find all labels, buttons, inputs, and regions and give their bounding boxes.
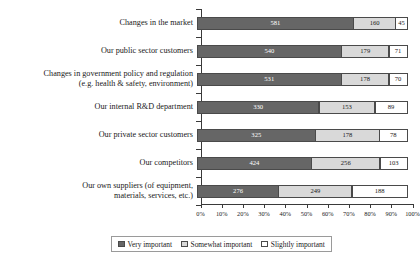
legend-swatch-icon [261, 241, 268, 248]
bar-segment: 424 [197, 157, 312, 170]
bar-segment: 249 [278, 185, 352, 198]
bar-segment: 581 [197, 17, 354, 30]
bar-value-label: 71 [395, 48, 402, 55]
legend-label: Somewhat important [191, 240, 253, 249]
x-axis-tick [285, 204, 286, 208]
bar-value-label: 45 [398, 20, 405, 27]
bar-value-label: 325 [251, 132, 261, 139]
bar-segment: 325 [197, 129, 316, 142]
x-axis-tick-labels: 0%10%20%30%40%50%60%70%80%90%100% [201, 209, 414, 221]
bar-value-label: 276 [233, 188, 243, 195]
chart-row: Our internal R&D department33015389 [0, 93, 418, 121]
chart-row: Changes in the market58116045 [0, 9, 418, 37]
x-axis-tick-label: 80% [364, 209, 376, 218]
x-axis-tick-label: 70% [343, 209, 355, 218]
category-label: Our public sector customers [0, 46, 197, 56]
bar-segment: 178 [315, 129, 380, 142]
stacked-bar: 53117870 [197, 73, 409, 86]
chart-row: Our competitors424256103 [0, 149, 418, 177]
x-axis-tick [307, 204, 308, 208]
stacked-bar: 58116045 [197, 17, 409, 30]
bar-value-label: 78 [390, 132, 397, 139]
bar-value-label: 531 [264, 76, 274, 83]
stacked-bar: 54017971 [197, 45, 409, 58]
category-label: Our competitors [0, 158, 197, 168]
bar-segment: 540 [197, 45, 342, 58]
chart-row: Our own suppliers (of equipment, materia… [0, 177, 418, 205]
bar-value-label: 188 [375, 188, 385, 195]
x-axis-tick [391, 204, 392, 208]
bar-value-label: 178 [342, 132, 352, 139]
category-label: Changes in government policy and regulat… [0, 69, 197, 88]
bar-value-label: 89 [388, 104, 395, 111]
bar-segment: 153 [319, 101, 376, 114]
bar-segment: 178 [341, 73, 389, 86]
x-axis-tick [264, 204, 265, 208]
x-axis-tick-label: 50% [301, 209, 313, 218]
x-axis-tick-label: 20% [237, 209, 249, 218]
category-label: Our internal R&D department [0, 102, 197, 112]
bar-value-label: 330 [253, 104, 263, 111]
stacked-bar: 276249188 [197, 185, 409, 198]
bar-segment: 160 [353, 17, 396, 30]
legend-item: Slightly important [261, 240, 325, 249]
bar-segment: 103 [380, 157, 408, 170]
bar-value-label: 179 [360, 48, 370, 55]
legend-label: Slightly important [271, 240, 325, 249]
bar-value-label: 153 [342, 104, 352, 111]
x-axis-tick-label: 0% [196, 209, 204, 218]
chart-legend: Very importantSomewhat importantSlightly… [111, 236, 332, 252]
bar-segment: 45 [395, 17, 407, 30]
bar-segment: 531 [197, 73, 342, 86]
legend-item: Very important [118, 240, 172, 249]
bar-segment: 78 [379, 129, 407, 142]
bar-segment: 179 [341, 45, 389, 58]
legend-label: Very important [128, 240, 173, 249]
bar-value-label: 249 [310, 188, 320, 195]
x-axis-tick-label: 30% [258, 209, 270, 218]
stacked-bar: 32517878 [197, 129, 409, 142]
x-axis-tick-label: 40% [280, 209, 292, 218]
x-axis-tick-label: 60% [322, 209, 334, 218]
category-label: Our private sector customers [0, 130, 197, 140]
bar-segment: 330 [197, 101, 319, 114]
x-axis-tick [370, 204, 371, 208]
legend-swatch-icon [181, 241, 188, 248]
legend-swatch-icon [118, 241, 125, 248]
bar-segment: 188 [352, 185, 408, 198]
chart-row: Changes in government policy and regulat… [0, 65, 418, 93]
x-axis-tick [222, 204, 223, 208]
x-axis-tick [349, 204, 350, 208]
stacked-bar: 33015389 [197, 101, 409, 114]
x-axis-tick [328, 204, 329, 208]
chart-row: Our private sector customers32517878 [0, 121, 418, 149]
bar-value-label: 160 [370, 20, 380, 27]
bar-rows: Changes in the market58116045Our public … [0, 9, 418, 205]
x-axis-tick-label: 90% [386, 209, 398, 218]
bar-value-label: 540 [265, 48, 275, 55]
bar-value-label: 70 [395, 76, 402, 83]
x-axis-tick-label: 100% [405, 209, 420, 218]
bar-segment: 276 [197, 185, 279, 198]
x-axis-tick [201, 204, 202, 208]
chart-row: Our public sector customers54017971 [0, 37, 418, 65]
bar-value-label: 103 [389, 160, 399, 167]
stacked-bar: 424256103 [197, 157, 409, 170]
x-axis-tick-label: 10% [216, 209, 228, 218]
bar-segment: 256 [311, 157, 380, 170]
legend-item: Somewhat important [181, 240, 252, 249]
bar-segment: 89 [375, 101, 408, 114]
bar-segment: 71 [389, 45, 408, 58]
x-axis-tick [243, 204, 244, 208]
bar-value-label: 424 [249, 160, 259, 167]
bar-value-label: 256 [341, 160, 351, 167]
bar-value-label: 581 [270, 20, 280, 27]
bar-segment: 70 [389, 73, 408, 86]
x-axis-tick [413, 204, 414, 208]
bar-value-label: 178 [360, 76, 370, 83]
category-label: Changes in the market [0, 18, 197, 28]
plot-area: Changes in the market58116045Our public … [0, 0, 418, 200]
category-label: Our own suppliers (of equipment, materia… [0, 181, 197, 200]
